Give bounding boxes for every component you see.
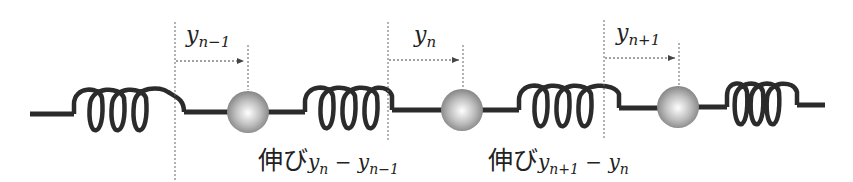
label-sub: n+1: [628, 31, 660, 49]
mass-n-plus-1: [657, 86, 699, 128]
extension-label-2: 伸びyn+1 − yn: [488, 140, 629, 177]
term-b-var: y: [608, 150, 619, 174]
chain-line: [30, 105, 825, 114]
extension-prefix: 伸び: [488, 146, 538, 175]
displacement-arrows: [176, 58, 675, 61]
term-a-var: y: [308, 150, 319, 174]
label-var: y: [616, 20, 628, 45]
mass-n: [441, 89, 483, 131]
spring-4: [727, 83, 797, 124]
term-a-sub: n+1: [549, 161, 579, 177]
term-a-sub: n: [319, 161, 328, 177]
displacement-label-n-plus-1: yn+1: [616, 20, 660, 49]
term-b-sub: n−1: [369, 161, 399, 177]
minus-operator: −: [579, 150, 608, 174]
term-b-sub: n: [620, 161, 629, 177]
displacement-label-n: yn: [414, 22, 436, 51]
term-a-var: y: [538, 150, 549, 174]
mass-n-minus-1: [227, 91, 269, 133]
minus-operator: −: [328, 150, 357, 174]
label-sub: n−1: [198, 33, 230, 51]
term-b-var: y: [358, 150, 369, 174]
displacement-label-n-minus-1: yn−1: [186, 22, 230, 51]
label-var: y: [186, 22, 198, 47]
label-var: y: [414, 22, 426, 47]
spring-2: [305, 88, 392, 129]
spring-1: [74, 88, 184, 130]
extension-label-1: 伸びyn − yn−1: [258, 140, 399, 177]
extension-prefix: 伸び: [258, 146, 308, 175]
label-sub: n: [426, 33, 436, 51]
